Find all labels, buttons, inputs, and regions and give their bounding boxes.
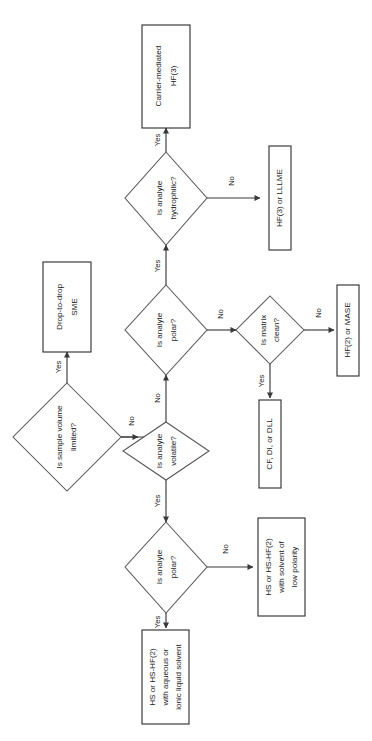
edge-polar-lower-no: No xyxy=(207,544,253,567)
node-label-is-analyte-polar-lower-line1: Is analyte xyxy=(155,549,164,584)
node-is-sample-volume-limited[interactable]: Is sample volume limited? xyxy=(13,383,121,491)
node-label-is-sample-volume-limited-line2: limited? xyxy=(69,423,78,451)
node-label-is-analyte-hydrophilic-line2: hydrophilic? xyxy=(169,176,178,220)
node-label-is-matrix-clean-line1: Is matrix xyxy=(259,315,268,346)
node-is-analyte-polar-lower[interactable]: Is analyte polar? xyxy=(125,522,207,613)
edge-label-hydrophilic-yes: Yes xyxy=(153,134,162,147)
node-label-is-analyte-polar-upper-line2: polar? xyxy=(169,318,178,341)
node-hf3-or-lllme[interactable]: HF(3) or LLLME xyxy=(269,146,291,250)
node-label-is-analyte-polar-lower-line2: polar? xyxy=(169,555,178,578)
edge-polar-upper-yes: Yes xyxy=(153,245,166,285)
node-hs-hf2-low-polarity[interactable]: HS or HS-HF(2) with solvent of low polar… xyxy=(258,518,305,616)
node-hs-hf2-aqueous-ionic[interactable]: HS or HS-HF(2) with aqueous or ionic liq… xyxy=(142,630,189,724)
edge-label-sample-volume-no: No xyxy=(127,416,136,426)
node-label-is-analyte-hydrophilic-line1: Is analyte xyxy=(155,180,164,215)
edge-label-polar-lower-no: No xyxy=(221,544,230,554)
edge-hydrophilic-no: No xyxy=(207,176,260,198)
node-is-analyte-volatile[interactable]: Is analyte volatile? xyxy=(123,422,209,480)
node-label-is-sample-volume-limited-line1: Is sample volume xyxy=(55,405,64,468)
edge-volatile-yes: Yes xyxy=(153,480,166,522)
node-drop-to-drop-sme[interactable]: Drop-to-drop SME xyxy=(43,262,91,352)
node-is-matrix-clean[interactable]: Is matrix clean? xyxy=(236,296,304,364)
edge-label-volatile-no: No xyxy=(153,393,162,403)
node-label-hs-hf2-aqueous-ionic-line3: ionic liquid solvent xyxy=(174,643,183,709)
node-carrier-mediated-hf3[interactable]: Carrier-mediated HF(3) xyxy=(142,25,190,128)
edge-label-volatile-yes: Yes xyxy=(153,495,162,508)
node-cf-di-or-dll[interactable]: CF, DI, or DLL xyxy=(259,400,281,488)
node-is-analyte-polar-upper[interactable]: Is analyte polar? xyxy=(125,285,207,375)
edge-label-matrix-clean-yes: Yes xyxy=(257,375,266,388)
node-label-hs-hf2-aqueous-ionic-line1: HS or HS-HF(2) xyxy=(148,648,157,706)
node-label-is-analyte-volatile-line2: volatile? xyxy=(169,436,178,466)
node-label-is-matrix-clean-line2: clean? xyxy=(272,318,281,342)
node-label-hs-hf2-low-polarity-line1: HS or HS-HF(2) xyxy=(264,538,273,596)
node-label-drop-to-drop-sme-line1: Drop-to-drop xyxy=(55,284,64,330)
node-label-is-analyte-volatile-line1: Is analyte xyxy=(155,433,164,468)
edge-label-hydrophilic-no: No xyxy=(227,176,236,186)
edge-label-polar-lower-yes: Yes xyxy=(153,616,162,629)
node-label-drop-to-drop-sme-line2: SME xyxy=(70,298,79,316)
node-label-hf3-or-lllme: HF(3) or LLLME xyxy=(275,168,284,227)
edge-label-polar-upper-no: No xyxy=(216,309,225,319)
flowchart-canvas: Yes No No Yes Yes No xyxy=(0,0,372,741)
node-label-hs-hf2-aqueous-ionic-line2: with aqueous or xyxy=(161,648,170,706)
edge-label-sample-volume-yes: Yes xyxy=(54,361,63,374)
edge-label-polar-upper-yes: Yes xyxy=(153,260,162,273)
edge-matrix-clean-yes: Yes xyxy=(257,364,270,398)
node-hf2-or-mase[interactable]: HF(2) or MASE xyxy=(337,285,359,376)
edge-volatile-no: No xyxy=(153,375,166,422)
edge-matrix-clean-no: No xyxy=(304,308,334,330)
edge-polar-lower-yes: Yes xyxy=(153,613,166,628)
edge-hydrophilic-yes: Yes xyxy=(153,128,166,152)
node-label-hs-hf2-low-polarity-line2: with solvent of xyxy=(277,541,286,594)
node-is-analyte-hydrophilic[interactable]: Is analyte hydrophilic? xyxy=(125,152,207,245)
node-label-hf2-or-mase: HF(2) or MASE xyxy=(343,302,352,358)
node-label-hs-hf2-low-polarity-line3: low polarity xyxy=(290,546,299,587)
node-label-carrier-mediated-hf3-line1: Carrier-mediated xyxy=(154,46,163,107)
edge-polar-upper-no: No xyxy=(207,309,236,330)
node-label-is-analyte-polar-upper-line1: Is analyte xyxy=(155,312,164,347)
edge-label-matrix-clean-no: No xyxy=(314,308,323,318)
flowchart-svg: Yes No No Yes Yes No xyxy=(0,0,372,741)
node-label-cf-di-or-dll: CF, DI, or DLL xyxy=(265,418,274,470)
edge-sample-volume-yes: Yes xyxy=(54,352,67,383)
node-label-carrier-mediated-hf3-line2: HF(3) xyxy=(169,65,178,86)
